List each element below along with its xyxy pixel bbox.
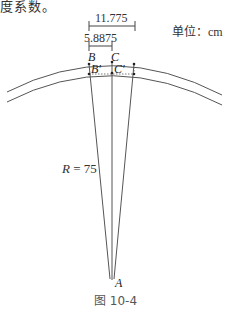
- figure-caption: 图 10-4: [94, 291, 137, 308]
- point-label-b-prime: B': [91, 62, 101, 77]
- radius-equals: =: [70, 161, 84, 176]
- point-label-a: A: [115, 276, 122, 291]
- radius-label: R = 75: [62, 161, 97, 177]
- radius-symbol: R: [62, 161, 70, 176]
- point-label-c-prime: C': [114, 62, 125, 77]
- dimension-label-inner: 5.8875: [84, 31, 117, 46]
- diagram-canvas: [0, 0, 229, 310]
- radius-value: 75: [84, 161, 97, 176]
- dimension-label-outer: 11.775: [95, 11, 128, 26]
